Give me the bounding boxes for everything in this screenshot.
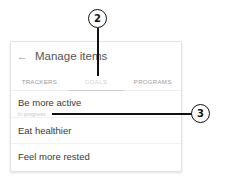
manage-items-panel: ← Manage items TRACKERS GOALS PROGRAMS B… bbox=[10, 41, 182, 172]
tab-goals[interactable]: GOALS bbox=[68, 72, 125, 90]
back-arrow-icon[interactable]: ← bbox=[17, 51, 31, 62]
list-item-feel-more-rested[interactable]: Feel more rested bbox=[11, 144, 181, 170]
goals-list: Be more active In progress Eat healthier… bbox=[11, 92, 181, 170]
list-item-eat-healthier[interactable]: Eat healthier bbox=[11, 118, 181, 144]
callout-2-badge: 2 bbox=[88, 9, 107, 28]
item-status: In progress bbox=[18, 111, 46, 117]
header: ← Manage items bbox=[11, 42, 181, 70]
callout-2-leader-line bbox=[97, 28, 99, 76]
callout-3-badge: 3 bbox=[191, 104, 210, 123]
item-label: Feel more rested bbox=[18, 151, 90, 162]
tab-trackers[interactable]: TRACKERS bbox=[11, 72, 68, 90]
item-label: Be more active bbox=[18, 97, 81, 108]
item-label: Eat healthier bbox=[18, 125, 71, 136]
callout-3-leader-line bbox=[52, 113, 193, 115]
tab-programs[interactable]: PROGRAMS bbox=[124, 72, 181, 90]
tab-bar: TRACKERS GOALS PROGRAMS bbox=[11, 72, 181, 91]
